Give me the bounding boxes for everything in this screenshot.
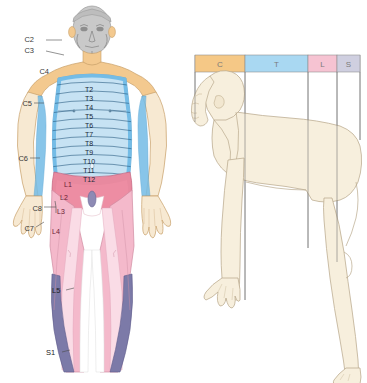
hand-right: [142, 196, 171, 238]
label-c8: C8: [32, 204, 42, 213]
label-s1: S1: [46, 348, 55, 357]
label-c7: C7: [24, 224, 34, 233]
anterior-dermatome-figure: C2 C3 C4 C5 C6 C7 C8 T2 T3 T4 T5 T6 T7 T…: [0, 0, 184, 383]
leader-c3: [46, 51, 64, 55]
genital-region: [88, 191, 96, 207]
label-t5: T5: [85, 113, 93, 120]
lateral-figure-svg: C T L S: [183, 0, 367, 383]
label-l2: L2: [60, 194, 68, 201]
spinal-region-legend: C T L S: [195, 55, 360, 72]
anterior-figure-svg: C2 C3 C4 C5 C6 C7 C8 T2 T3 T4 T5 T6 T7 T…: [0, 0, 184, 383]
label-l3: L3: [57, 208, 65, 215]
label-c2: C2: [24, 35, 34, 44]
legend-label-c: C: [217, 60, 223, 69]
label-t6: T6: [85, 122, 93, 129]
legend-label-s: S: [346, 60, 351, 69]
label-l4: L4: [52, 228, 60, 235]
label-t12: T12: [83, 176, 95, 183]
lateral-quadruped-figure: C T L S: [183, 0, 367, 383]
ear-right: [109, 27, 116, 38]
label-t4: T4: [85, 104, 93, 111]
label-t11: T11: [83, 167, 95, 174]
label-t9: T9: [85, 149, 93, 156]
ear-lateral: [214, 96, 224, 109]
label-t7: T7: [85, 131, 93, 138]
dermatome-chart: C2 C3 C4 C5 C6 C7 C8 T2 T3 T4 T5 T6 T7 T…: [0, 0, 367, 383]
ear-left: [69, 27, 76, 38]
foot-lateral: [333, 368, 361, 383]
label-t2: T2: [85, 86, 93, 93]
label-t3: T3: [85, 95, 93, 102]
head-group: [69, 6, 116, 67]
label-c3: C3: [24, 46, 34, 55]
label-l5: L5: [52, 286, 60, 295]
hand-lateral: [204, 278, 240, 308]
legs-group: [50, 190, 134, 372]
label-t10: T10: [83, 158, 95, 165]
label-l1: L1: [64, 181, 72, 188]
legend-label-t: T: [274, 60, 279, 69]
legend-label-l: L: [320, 60, 325, 69]
quadruped-body-group: [191, 71, 362, 383]
leg-lateral: [324, 198, 359, 380]
label-c4: C4: [39, 67, 49, 76]
label-c6: C6: [18, 154, 28, 163]
label-t8: T8: [85, 140, 93, 147]
label-c5: C5: [22, 99, 32, 108]
